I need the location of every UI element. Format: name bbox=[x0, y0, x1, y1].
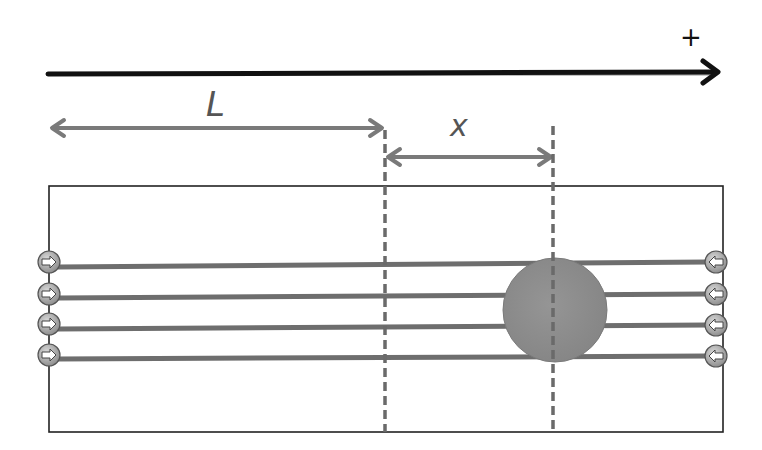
charge-left-arrow-icon bbox=[705, 251, 727, 273]
length-L-label: L bbox=[206, 84, 225, 124]
charge-right-arrow-icon bbox=[38, 313, 60, 335]
charge-right-arrow-icon bbox=[38, 344, 60, 366]
positive-direction-label: + bbox=[680, 22, 702, 52]
displacement-x-dimension-arrow bbox=[388, 149, 551, 165]
displacement-x-label: x bbox=[450, 108, 468, 143]
field-lines bbox=[58, 262, 708, 359]
positive-direction-axis bbox=[48, 61, 718, 83]
charge-left-arrow-icon bbox=[705, 283, 727, 305]
sphere bbox=[503, 258, 607, 362]
charge-right-arrow-icon bbox=[38, 283, 60, 305]
charge-left-arrow-icon bbox=[705, 314, 727, 336]
diagram-canvas bbox=[0, 0, 762, 450]
charge-left-arrow-icon bbox=[705, 345, 727, 367]
charge-right-arrow-icon bbox=[38, 251, 60, 273]
